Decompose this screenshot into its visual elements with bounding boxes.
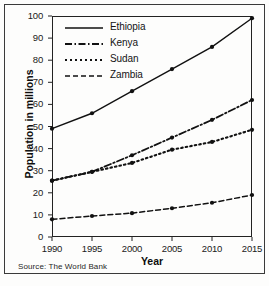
dashed-line-swatch-icon	[63, 68, 105, 84]
legend-item-kenya: Kenya	[63, 36, 173, 52]
data-point-sudan	[170, 148, 174, 152]
x-tick-label: 1995	[75, 243, 109, 254]
data-point-ethiopia	[130, 89, 134, 93]
data-point-sudan	[210, 140, 214, 144]
y-tick-label: 100	[21, 10, 43, 21]
series-line-zambia	[52, 195, 252, 219]
y-tick-label: 90	[21, 32, 43, 43]
series-line-sudan	[52, 130, 252, 181]
x-tick-label: 2010	[195, 243, 229, 254]
y-axis-title: Population in millions	[23, 44, 35, 204]
data-point-ethiopia	[90, 111, 94, 115]
legend-label-zambia: Zambia	[110, 69, 143, 80]
x-tick-label: 2000	[115, 243, 149, 254]
legend-item-ethiopia: Ethiopia	[63, 20, 173, 36]
x-tick-label: 2005	[155, 243, 189, 254]
dotted-line-swatch-icon	[63, 52, 105, 68]
legend-item-zambia: Zambia	[63, 68, 173, 84]
data-point-kenya	[130, 153, 134, 157]
y-axis-ticks	[48, 16, 52, 237]
y-tick-label: 10	[21, 209, 43, 220]
source-note: Source: The World Bank	[18, 262, 107, 271]
data-point-sudan	[130, 161, 134, 165]
data-point-ethiopia	[250, 16, 254, 20]
x-tick-label: 2015	[235, 243, 269, 254]
data-point-ethiopia	[210, 45, 214, 49]
legend-label-ethiopia: Ethiopia	[110, 21, 145, 32]
dash-dot-line-swatch-icon	[63, 36, 105, 52]
legend-label-kenya: Kenya	[110, 37, 138, 48]
data-point-zambia	[210, 201, 214, 205]
series-line-kenya	[52, 100, 252, 181]
y-tick-label: 0	[21, 231, 43, 242]
data-point-sudan	[250, 128, 254, 132]
legend-label-sudan: Sudan	[110, 53, 138, 64]
chart-legend: Ethiopia Kenya Sudan Zambia	[63, 20, 173, 84]
data-point-zambia	[130, 211, 134, 215]
data-point-kenya	[210, 118, 214, 122]
data-point-zambia	[250, 193, 254, 197]
data-point-sudan	[90, 170, 94, 174]
data-point-kenya	[250, 98, 254, 102]
x-axis-ticks	[52, 237, 252, 241]
solid-line-swatch-icon	[63, 20, 105, 36]
legend-item-sudan: Sudan	[63, 52, 173, 68]
data-point-kenya	[170, 135, 174, 139]
data-point-ethiopia	[50, 127, 54, 131]
data-point-zambia	[90, 214, 94, 218]
chart-figure: 0102030405060708090100 19901995200020052…	[0, 0, 269, 286]
data-point-sudan	[50, 179, 54, 183]
data-point-zambia	[50, 217, 54, 221]
data-point-zambia	[170, 206, 174, 210]
x-tick-label: 1990	[35, 243, 69, 254]
